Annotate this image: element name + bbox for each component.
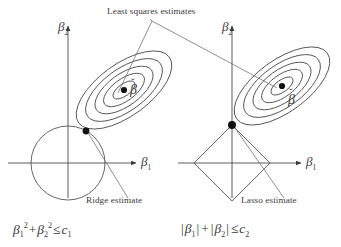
lasso-y-axis-sub: 2 <box>228 28 232 37</box>
ridge-eq-c-sub: 1 <box>68 230 72 239</box>
lasso-ols-estimate-label: ˇβ <box>288 93 341 107</box>
ridge-ols-hat: ˇ <box>131 77 135 88</box>
leader-ridge-estimate <box>88 133 128 198</box>
leader-lines <box>88 19 284 198</box>
ridge-eq-beta1: β <box>13 222 20 237</box>
ridge-lasso-diagram: Least squares estimates β2 β1 ˇβ Ridge e… <box>0 0 341 247</box>
lasso-x-axis-label: β1 <box>306 155 316 171</box>
ridge-ols-point <box>121 87 127 93</box>
lasso-eq-plus: + <box>200 221 210 236</box>
lasso-panel-graphics <box>178 26 341 201</box>
ridge-eq-beta1-sub: 1 <box>20 230 24 239</box>
lasso-estimate-label: Lasso estimate <box>241 196 297 205</box>
ridge-x-axis-label: β1 <box>141 155 151 171</box>
least-squares-estimates-label: Least squares estimates <box>107 7 196 16</box>
lasso-x-axis-sub: 1 <box>312 163 316 172</box>
lasso-ols-hat: ˇ <box>289 87 293 98</box>
ridge-y-axis-label: β2 <box>58 20 68 36</box>
lasso-constraint-equation: |β1|+|β2|≤c2 <box>180 222 249 239</box>
ridge-eq-beta2-sub: 2 <box>44 230 48 239</box>
ridge-y-axis-sub: 2 <box>64 28 68 37</box>
leader-least-squares-right <box>152 21 277 88</box>
ridge-estimate-label: Ridge estimate <box>86 196 142 205</box>
lasso-eq-c-sub: 2 <box>245 230 249 239</box>
lasso-eq-leq: ≤ <box>230 221 239 236</box>
ridge-constraint-equation: β12+β22≤c1 <box>13 222 72 239</box>
lasso-y-axis-label: β2 <box>222 20 232 36</box>
ridge-panel-graphics <box>8 26 185 200</box>
lasso-solution-point <box>228 121 236 129</box>
diagram-canvas <box>0 0 341 247</box>
ridge-x-axis-sub: 1 <box>147 163 151 172</box>
ridge-eq-leq: ≤ <box>52 222 61 237</box>
ridge-eq-plus: + <box>28 222 38 237</box>
